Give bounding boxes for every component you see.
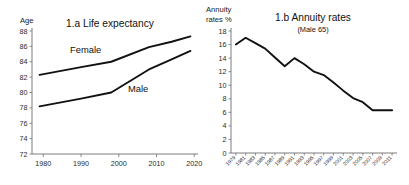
- life-y-tick-label: 74: [20, 134, 28, 143]
- life-y-tick-label: 86: [20, 42, 28, 51]
- life-y-tick-label: 88: [20, 27, 28, 36]
- annuity-y-tick-label: 16: [219, 40, 227, 49]
- annuity-y-axis-title-line2: rates %: [206, 15, 232, 24]
- life-series-label-female: Female: [70, 44, 101, 55]
- life-x-tick-label: 1980: [35, 159, 51, 168]
- chart-panel-life-expectancy: Age1.a Life expectancy727476788082848688…: [0, 0, 203, 185]
- life-y-tick-label: 78: [20, 103, 28, 112]
- annuity-y-tick-label: 18: [219, 27, 227, 36]
- life-series-label-male: Male: [128, 83, 148, 94]
- annuity-x-tick-label: 2011: [381, 154, 393, 166]
- chart-panel-annuity-rates: Annuityrates %1.b Annuity rates(Male 65)…: [203, 0, 409, 185]
- life-x-tick-label: 2020: [186, 159, 202, 168]
- annuity-chart-title: 1.b Annuity rates: [275, 12, 351, 23]
- annuity-y-tick-label: 2: [223, 135, 227, 144]
- annuity-y-tick-label: 6: [223, 108, 227, 117]
- annuity-y-axis-title-line1: Annuity: [206, 5, 232, 14]
- life-y-axis-title: Age: [20, 16, 34, 25]
- annuity-y-tick-label: 0: [223, 149, 227, 158]
- annuity-y-tick-label: 10: [219, 81, 227, 90]
- life-y-tick-label: 84: [20, 57, 28, 66]
- life-x-tick-label: 2000: [111, 159, 127, 168]
- life-x-tick-label: 2010: [149, 159, 165, 168]
- annuity-y-tick-label: 8: [223, 94, 227, 103]
- life-y-tick-label: 80: [20, 88, 28, 97]
- life-series-line-female: [40, 36, 191, 74]
- annuity-y-tick-label: 4: [223, 121, 227, 130]
- annuity-series-line: [236, 38, 392, 111]
- figure-root: Age1.a Life expectancy727476788082848688…: [0, 0, 409, 185]
- annuity-y-tick-label: 12: [219, 67, 227, 76]
- life-y-tick-label: 82: [20, 73, 28, 82]
- annuity-y-tick-label: 14: [219, 54, 227, 63]
- life-y-tick-label: 72: [20, 150, 28, 159]
- life-expectancy-chart: Age1.a Life expectancy727476788082848688…: [0, 0, 203, 185]
- life-x-tick-label: 1990: [73, 159, 89, 168]
- annuity-rates-chart: Annuityrates %1.b Annuity rates(Male 65)…: [203, 0, 409, 185]
- annuity-chart-subtitle: (Male 65): [297, 25, 328, 34]
- life-chart-title: 1.a Life expectancy: [66, 18, 155, 29]
- life-y-tick-label: 76: [20, 119, 28, 128]
